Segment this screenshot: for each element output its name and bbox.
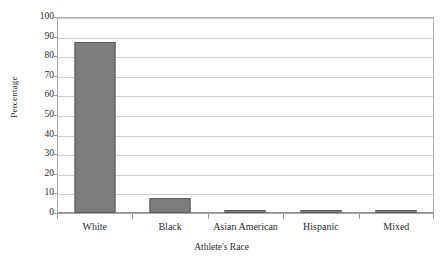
bar-slot	[283, 17, 358, 213]
bar-slot	[57, 17, 132, 213]
y-tick-label: 0	[14, 208, 54, 218]
bar[interactable]	[376, 210, 417, 213]
y-tick-label: 40	[14, 130, 54, 140]
x-axis-title: Athlete's Race	[0, 242, 443, 252]
y-tick-label: 50	[14, 110, 54, 120]
y-tick-label: 30	[14, 149, 54, 159]
x-tick-mark	[208, 214, 209, 219]
bars-layer	[57, 17, 434, 214]
bar-slot	[132, 17, 207, 213]
bar[interactable]	[74, 42, 115, 214]
bar-chart: Percentage 1009080706050403020100 WhiteB…	[0, 0, 443, 273]
bar-slot	[208, 17, 283, 213]
x-tick-label: Black	[158, 221, 181, 232]
y-tick-label: 20	[14, 169, 54, 179]
y-tick-label: 80	[14, 51, 54, 61]
x-tick-mark	[132, 214, 133, 219]
y-tick-label: 60	[14, 91, 54, 101]
bar[interactable]	[300, 210, 341, 213]
x-tick-label: Asian American	[213, 221, 278, 232]
x-tick-mark	[283, 214, 284, 219]
y-tick-label: 100	[14, 12, 54, 22]
x-tick-label: White	[82, 221, 106, 232]
x-tick-label: Hispanic	[303, 221, 339, 232]
y-tick-label: 90	[14, 32, 54, 42]
x-tick-mark	[57, 214, 58, 219]
y-tick-label: 70	[14, 71, 54, 81]
x-tick-mark	[359, 214, 360, 219]
x-tick-mark	[433, 214, 434, 219]
y-tick-label: 10	[14, 189, 54, 199]
bar[interactable]	[150, 198, 191, 213]
bar[interactable]	[225, 210, 266, 213]
x-tick-label: Mixed	[383, 221, 409, 232]
bar-slot	[359, 17, 434, 213]
